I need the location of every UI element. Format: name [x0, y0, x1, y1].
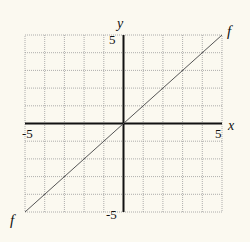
x-axis-label: x — [227, 118, 235, 133]
x-min-tick-label: -5 — [22, 126, 33, 141]
y-min-tick-label: -5 — [106, 207, 117, 222]
curve-label-top: f — [227, 23, 233, 39]
y-axis-label: y — [115, 16, 124, 31]
curve-label-bottom: f — [10, 212, 16, 228]
x-max-tick-label: 5 — [215, 126, 222, 141]
y-max-tick-label: 5 — [109, 32, 116, 47]
function-graph: y x 5 -5 -5 5 f f — [0, 0, 250, 242]
